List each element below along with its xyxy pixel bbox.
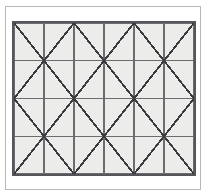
cell-diagonal-r0-c4 <box>134 23 164 61</box>
diagram-panel <box>12 21 196 176</box>
cell-diagonal-r3-c3 <box>104 136 134 174</box>
cell-diagonal-r2-c0 <box>14 99 44 137</box>
figure-root <box>0 0 206 195</box>
grid-lines-group <box>14 23 194 174</box>
cell-diagonal-r2-c4 <box>134 99 164 137</box>
cell-diagonal-r0-c2 <box>74 23 104 61</box>
cell-diagonal-r2-c2 <box>74 99 104 137</box>
cell-diagonal-r1-c0 <box>14 61 44 99</box>
cell-diagonal-r0-c5 <box>164 23 194 61</box>
cell-diagonal-r3-c1 <box>44 136 74 174</box>
cell-diagonal-r1-c2 <box>74 61 104 99</box>
cell-diagonal-r2-c3 <box>104 99 134 137</box>
grid-diagram-svg <box>14 23 194 174</box>
cell-diagonal-r3-c5 <box>164 136 194 174</box>
cell-diagonal-r0-c1 <box>44 23 74 61</box>
cell-diagonal-r1-c3 <box>104 61 134 99</box>
cell-diagonal-r1-c4 <box>134 61 164 99</box>
cell-diagonal-r2-c1 <box>44 99 74 137</box>
cell-diagonal-r3-c4 <box>134 136 164 174</box>
cell-diagonal-r3-c0 <box>14 136 44 174</box>
cell-diagonal-r1-c1 <box>44 61 74 99</box>
cell-diagonal-r1-c5 <box>164 61 194 99</box>
cell-diagonal-r0-c3 <box>104 23 134 61</box>
cell-diagonal-r0-c0 <box>14 23 44 61</box>
cell-diagonal-r2-c5 <box>164 99 194 137</box>
cell-diagonal-r3-c2 <box>74 136 104 174</box>
